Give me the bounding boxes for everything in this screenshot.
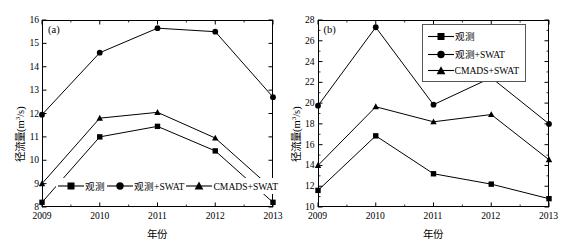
y-axis-title-b-tail: /s) <box>291 106 302 117</box>
data-point-marker <box>430 102 436 108</box>
legend-label-observed-swat-a: 观测+SWAT <box>133 179 186 193</box>
legend-symbol-circle-icon <box>107 180 133 192</box>
data-point-marker <box>372 24 378 30</box>
legend-symbol-triangle-icon <box>186 180 212 192</box>
x-tick-label: 2009 <box>308 211 327 221</box>
panel-label-b: (b) <box>324 24 336 35</box>
data-point-marker <box>270 94 276 100</box>
y-tick-label: 16 <box>20 15 39 25</box>
y-tick-label: 14 <box>20 62 39 72</box>
data-point-marker <box>488 111 494 117</box>
data-point-marker <box>488 181 493 186</box>
y-tick-label: 15 <box>20 38 39 48</box>
y-axis-title-a: 径流量(m3/s) <box>12 106 27 162</box>
data-point-marker <box>315 188 320 193</box>
legend-entry-cmads-swat-b[interactable]: CMADS+SWAT <box>428 65 520 76</box>
y-axis-title-b-sup: 3 <box>289 117 297 121</box>
x-tick-label: 2010 <box>366 211 385 221</box>
legend-b: 观测 观测+SWAT CMADS+SWAT <box>422 24 527 82</box>
x-tick-label: 2013 <box>539 211 558 221</box>
legend-entry-observed-b[interactable]: 观测 <box>428 29 520 43</box>
panel-b: (b) 10121416182022242628 200920102011201… <box>282 0 563 246</box>
panel-label-a: (a) <box>48 24 60 35</box>
data-point-marker <box>546 196 551 201</box>
panel-a: (a) 8910111213141516 2009201020112012201… <box>0 0 282 246</box>
x-tick-label: 2010 <box>90 211 109 221</box>
x-tick-label: 2012 <box>206 211 225 221</box>
x-tick-label: 2013 <box>263 211 282 221</box>
x-tick-label: 2012 <box>481 211 500 221</box>
x-axis-title-b: 年份 <box>373 226 493 241</box>
legend-entry-observed-swat-b[interactable]: 观测+SWAT <box>428 47 520 61</box>
figure-container: (a) 8910111213141516 2009201020112012201… <box>0 0 563 246</box>
data-point-marker <box>213 148 218 153</box>
data-point-marker <box>372 103 378 109</box>
legend-entry-observed-a[interactable]: 观测 <box>58 179 107 193</box>
y-tick-label: 12 <box>296 181 315 191</box>
x-tick-label: 2009 <box>32 211 51 221</box>
x-tick-label: 2011 <box>424 211 443 221</box>
y-axis-title-b-text: 径流量(m <box>291 120 302 162</box>
data-point-marker <box>315 103 321 109</box>
data-point-marker <box>97 50 103 56</box>
legend-label-observed-swat-b: 观测+SWAT <box>454 47 505 61</box>
legend-entry-cmads-swat-a[interactable]: CMADS+SWAT <box>186 180 280 192</box>
y-axis-title-a-sup: 3 <box>14 117 22 121</box>
legend-a: 观测 观测+SWAT CMADS+SWAT <box>56 178 282 194</box>
data-point-marker <box>546 121 552 127</box>
data-point-marker <box>39 200 44 205</box>
legend-symbol-square-icon <box>428 31 454 42</box>
data-point-marker <box>155 124 160 129</box>
y-tick-label: 28 <box>296 15 315 25</box>
legend-symbol-square-icon <box>58 180 84 192</box>
data-point-marker <box>155 25 161 31</box>
legend-symbol-triangle-icon <box>428 65 454 76</box>
y-tick-label: 24 <box>296 57 315 67</box>
legend-label-observed-a: 观测 <box>84 179 107 193</box>
y-axis-title-a-text: 径流量(m <box>15 120 26 162</box>
data-point-marker <box>39 112 45 118</box>
data-point-marker <box>212 29 218 35</box>
data-point-marker <box>154 109 160 115</box>
y-tick-label: 9 <box>20 179 39 189</box>
legend-label-cmads-swat-a: CMADS+SWAT <box>212 181 280 192</box>
legend-label-observed-b: 观测 <box>454 29 475 43</box>
legend-symbol-circle-icon <box>428 49 454 60</box>
y-tick-label: 22 <box>296 77 315 87</box>
x-axis-title-a: 年份 <box>97 226 217 241</box>
y-axis-title-b: 径流量(m3/s) <box>288 106 303 162</box>
data-point-marker <box>373 133 378 138</box>
legend-label-cmads-swat-b: CMADS+SWAT <box>454 65 520 76</box>
legend-entry-observed-swat-a[interactable]: 观测+SWAT <box>107 179 186 193</box>
y-axis-title-a-tail: /s) <box>15 106 26 117</box>
data-point-marker <box>97 134 102 139</box>
x-tick-label: 2011 <box>148 211 167 221</box>
data-point-marker <box>430 171 435 176</box>
data-point-marker <box>545 156 551 162</box>
data-point-marker <box>270 200 275 205</box>
y-tick-label: 13 <box>20 85 39 95</box>
y-tick-label: 26 <box>296 36 315 46</box>
data-point-marker <box>212 135 218 141</box>
